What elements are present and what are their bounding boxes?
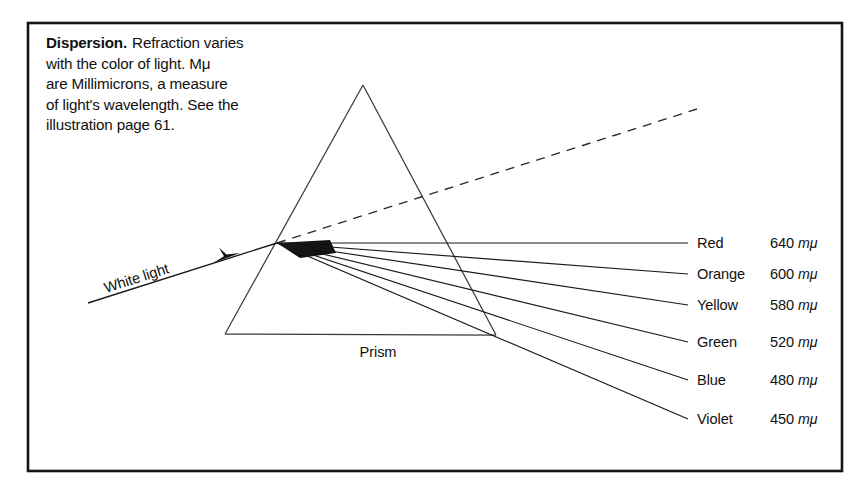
wavelength-green-unit: mμ — [798, 334, 818, 350]
color-label-violet: Violet — [697, 411, 733, 427]
prism-label: Prism — [360, 344, 397, 360]
wavelength-violet-unit: mμ — [798, 411, 818, 427]
caption-line-2: with the color of light. Mμ — [45, 55, 210, 72]
wavelength-red-unit: mμ — [798, 235, 818, 251]
wavelength-yellow-number: 580 — [770, 297, 794, 313]
caption-line-5: illustration page 61. — [46, 116, 175, 133]
color-label-yellow: Yellow — [697, 297, 739, 313]
caption-line-1: Dispersion.Refraction varies — [46, 34, 244, 51]
wavelength-blue-unit: mμ — [798, 372, 818, 388]
wavelength-red: 640mμ — [770, 235, 818, 251]
wavelength-blue-number: 480 — [770, 372, 794, 388]
wavelength-blue: 480mμ — [770, 372, 818, 388]
color-label-red: Red — [697, 235, 723, 251]
wavelength-red-number: 640 — [770, 235, 794, 251]
wavelength-orange-number: 600 — [770, 266, 794, 282]
wavelength-yellow: 580mμ — [770, 297, 818, 313]
caption-line-4: of light's wavelength. See the — [46, 96, 239, 113]
wavelength-orange: 600mμ — [770, 266, 818, 282]
dispersion-diagram-canvas: Dispersion.Refraction varies with the co… — [0, 0, 862, 496]
color-label-blue: Blue — [697, 372, 726, 388]
caption-lead-word: Dispersion. — [46, 34, 127, 51]
wavelength-yellow-unit: mμ — [798, 297, 818, 313]
color-label-orange: Orange — [697, 266, 745, 282]
dispersion-figure: Dispersion.Refraction varies with the co… — [0, 0, 862, 496]
color-label-green: Green — [697, 334, 737, 350]
wavelength-violet: 450mμ — [770, 411, 818, 427]
wavelength-orange-unit: mμ — [798, 266, 818, 282]
caption-line-1-rest: Refraction varies — [132, 34, 244, 51]
wavelength-green: 520mμ — [770, 334, 818, 350]
caption-line-3: are Millimicrons, a measure — [46, 75, 228, 92]
wavelength-violet-number: 450 — [770, 411, 794, 427]
wavelength-green-number: 520 — [770, 334, 794, 350]
